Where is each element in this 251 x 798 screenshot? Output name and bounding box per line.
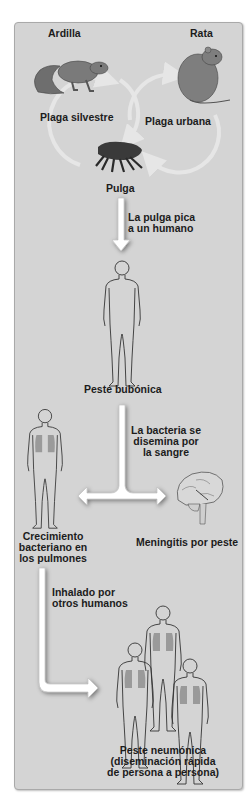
blood-spread-label: La bacteria se disemina por la sangre bbox=[130, 425, 202, 458]
rat-label: Rata bbox=[190, 28, 213, 39]
sylvatic-cycle-label: Plaga silvestre bbox=[40, 112, 114, 123]
human-figure-lungs bbox=[28, 409, 63, 528]
rat-illustration bbox=[178, 47, 230, 103]
pneumonic-plague-label: Peste neumónica (diseminación rápida de … bbox=[106, 745, 220, 778]
inhaled-label: Inhalado por otros humanos bbox=[52, 587, 128, 609]
flea-illustration bbox=[96, 142, 142, 172]
squirrel-label: Ardilla bbox=[48, 28, 81, 39]
flea-label: Pulga bbox=[106, 183, 135, 194]
inhaled-line-2: otros humanos bbox=[52, 598, 128, 609]
urban-cycle-label: Plaga urbana bbox=[145, 116, 211, 127]
lung-growth-line-3: los pulmones bbox=[18, 553, 88, 564]
blood-spread-line-3: la sangre bbox=[130, 447, 202, 458]
bubonic-plague-label: Peste bubónica bbox=[84, 384, 162, 395]
diagram-graphics bbox=[0, 0, 251, 798]
brain-illustration bbox=[177, 472, 223, 524]
flea-bites-line-2: a un humano bbox=[128, 223, 195, 234]
human-figure-bubonic bbox=[104, 261, 141, 386]
pneumonic-line-3: de persona a persona) bbox=[106, 767, 220, 778]
lung-growth-label: Crecimiento bacteriano en los pulmones bbox=[18, 531, 88, 564]
meningitis-label: Meningitis por peste bbox=[136, 537, 238, 548]
flea-bites-label: La pulga pica a un humano bbox=[128, 212, 195, 234]
